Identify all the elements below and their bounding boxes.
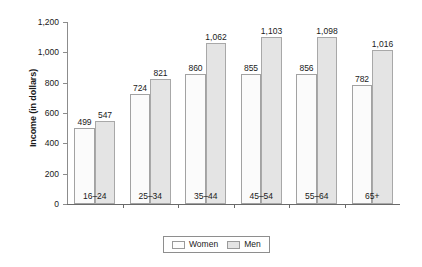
bar-value-label: 821	[144, 68, 177, 78]
y-tick-mark	[63, 204, 67, 205]
x-tick-mark	[178, 204, 179, 208]
legend-label-men: Men	[244, 240, 261, 249]
bar-men	[372, 50, 393, 204]
x-category-label: 35–44	[176, 191, 236, 201]
bar-men	[261, 37, 282, 204]
x-category-label: 55–64	[287, 191, 347, 201]
bar-value-label: 1,062	[200, 32, 233, 42]
x-tick-mark	[234, 204, 235, 208]
bar-women	[241, 74, 262, 204]
y-tick-mark	[63, 22, 67, 23]
y-tick-mark	[63, 113, 67, 114]
y-tick-mark	[63, 174, 67, 175]
bar-women	[352, 85, 373, 204]
x-tick-mark	[345, 204, 346, 208]
plot-area: 02004006008001,0001,200 4995477248218601…	[67, 22, 400, 204]
x-category-label: 25–34	[120, 191, 180, 201]
bar-value-label: 855	[235, 63, 268, 73]
chart-legend: Women Men	[163, 236, 270, 253]
bar-value-label: 547	[89, 110, 122, 120]
bar-value-label: 1,103	[255, 26, 288, 36]
legend-item-women[interactable]: Women	[172, 240, 218, 249]
legend-label-women: Women	[189, 240, 218, 249]
bar-chart: Income (in dollars) 02004006008001,0001,…	[0, 0, 422, 267]
bar-value-label: 860	[179, 63, 212, 73]
y-axis-title: Income (in dollars)	[28, 28, 38, 188]
x-category-label: 65+	[342, 191, 402, 201]
bar-value-label: 1,016	[366, 39, 399, 49]
bar-women	[130, 94, 151, 204]
x-category-label: 16–24	[65, 191, 125, 201]
bar-men	[150, 79, 171, 204]
bar-women	[185, 74, 206, 204]
y-axis-line	[67, 22, 68, 204]
bar-value-label: 782	[346, 74, 379, 84]
x-category-label: 45–54	[231, 191, 291, 201]
bar-value-label: 856	[290, 63, 323, 73]
y-tick-mark	[63, 52, 67, 53]
y-tick-mark	[63, 83, 67, 84]
y-tick-mark	[63, 143, 67, 144]
men-swatch-icon	[227, 241, 240, 249]
women-swatch-icon	[172, 241, 185, 249]
bar-women	[296, 74, 317, 204]
legend-item-men[interactable]: Men	[227, 240, 261, 249]
bar-value-label: 1,098	[311, 26, 344, 36]
bar-value-label: 724	[124, 83, 157, 93]
x-tick-mark	[289, 204, 290, 208]
x-tick-mark	[123, 204, 124, 208]
